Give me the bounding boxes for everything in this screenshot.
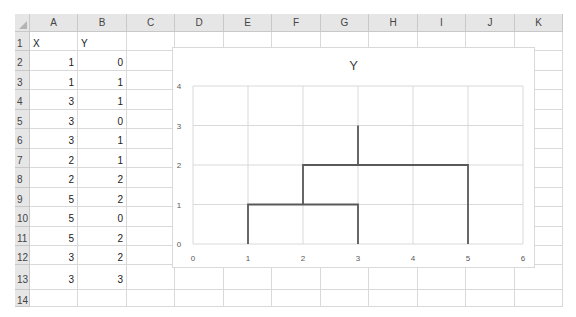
cell-b1[interactable]: Y (78, 32, 127, 51)
column-header-e[interactable]: E (224, 14, 272, 32)
row-header-14[interactable]: 14 (15, 290, 30, 307)
cell-a3[interactable]: 1 (30, 71, 78, 90)
cell-b12[interactable]: 2 (78, 246, 127, 265)
cell-e13[interactable] (224, 265, 272, 290)
y-tick-label: 3 (177, 122, 182, 131)
cell-k13[interactable] (515, 265, 563, 290)
row-header-3[interactable]: 3 (15, 71, 30, 90)
cell-j13[interactable] (466, 265, 515, 290)
cell-j14[interactable] (466, 290, 515, 307)
cell-b8[interactable]: 2 (78, 168, 127, 188)
cell-c10[interactable] (127, 207, 175, 227)
cell-i14[interactable] (418, 290, 466, 307)
row-header-12[interactable]: 12 (15, 246, 30, 265)
cell-b14[interactable] (78, 290, 127, 307)
row-header-7[interactable]: 7 (15, 149, 30, 168)
cell-c3[interactable] (127, 71, 175, 90)
cell-a13[interactable]: 3 (30, 265, 78, 290)
cell-a2[interactable]: 1 (30, 51, 78, 71)
column-header-f[interactable]: F (272, 14, 321, 32)
column-header-a[interactable]: A (30, 14, 78, 32)
cell-b9[interactable]: 2 (78, 188, 127, 207)
y-tick-label: 0 (177, 240, 182, 249)
row-header-11[interactable]: 11 (15, 227, 30, 246)
cell-d13[interactable] (175, 265, 224, 290)
y-tick-label: 4 (177, 82, 182, 91)
row-header-1[interactable]: 1 (15, 32, 30, 51)
column-header-i[interactable]: I (418, 14, 466, 32)
cell-f14[interactable] (272, 290, 321, 307)
column-header-h[interactable]: H (369, 14, 418, 32)
cell-h14[interactable] (369, 290, 418, 307)
row-header-9[interactable]: 9 (15, 188, 30, 207)
x-tick-label: 4 (411, 254, 416, 263)
cell-b4[interactable]: 1 (78, 90, 127, 110)
cell-b2[interactable]: 0 (78, 51, 127, 71)
row-header-2[interactable]: 2 (15, 51, 30, 71)
x-tick-label: 1 (246, 254, 251, 263)
cell-k14[interactable] (515, 290, 563, 307)
cell-c9[interactable] (127, 188, 175, 207)
cell-c8[interactable] (127, 168, 175, 188)
chart[interactable]: Y 012345601234 (172, 47, 535, 268)
cell-a10[interactable]: 5 (30, 207, 78, 227)
column-header-c[interactable]: C (127, 14, 175, 32)
cell-a4[interactable]: 3 (30, 90, 78, 110)
row-header-5[interactable]: 5 (15, 110, 30, 129)
cell-c13[interactable] (127, 265, 175, 290)
cell-a9[interactable]: 5 (30, 188, 78, 207)
cell-a8[interactable]: 2 (30, 168, 78, 188)
y-tick-label: 2 (177, 161, 182, 170)
x-tick-label: 0 (191, 254, 196, 263)
cell-b7[interactable]: 1 (78, 149, 127, 168)
plot-area: 012345601234 (173, 48, 534, 267)
column-header-k[interactable]: K (515, 14, 563, 32)
cell-c2[interactable] (127, 51, 175, 71)
column-header-j[interactable]: J (466, 14, 515, 32)
cell-a6[interactable]: 3 (30, 129, 78, 149)
cell-b6[interactable]: 1 (78, 129, 127, 149)
cell-b13[interactable]: 3 (78, 265, 127, 290)
cell-f13[interactable] (272, 265, 321, 290)
column-header-b[interactable]: B (78, 14, 127, 32)
select-all-corner[interactable] (15, 14, 30, 32)
cell-h13[interactable] (369, 265, 418, 290)
x-tick-label: 3 (356, 254, 361, 263)
x-tick-label: 5 (466, 254, 471, 263)
cell-b3[interactable]: 1 (78, 71, 127, 90)
column-header-g[interactable]: G (321, 14, 369, 32)
cell-a1[interactable]: X (30, 32, 78, 51)
cell-c4[interactable] (127, 90, 175, 110)
cell-g14[interactable] (321, 290, 369, 307)
cell-b11[interactable]: 2 (78, 227, 127, 246)
cell-b10[interactable]: 0 (78, 207, 127, 227)
row-header-4[interactable]: 4 (15, 90, 30, 110)
x-tick-label: 2 (301, 254, 306, 263)
cell-c7[interactable] (127, 149, 175, 168)
column-header-d[interactable]: D (175, 14, 224, 32)
cell-b5[interactable]: 0 (78, 110, 127, 129)
row-header-13[interactable]: 13 (15, 265, 30, 290)
cell-g13[interactable] (321, 265, 369, 290)
cell-i13[interactable] (418, 265, 466, 290)
cell-a11[interactable]: 5 (30, 227, 78, 246)
cell-c5[interactable] (127, 110, 175, 129)
cell-c11[interactable] (127, 227, 175, 246)
cell-d14[interactable] (175, 290, 224, 307)
x-tick-label: 6 (521, 254, 526, 263)
cell-e14[interactable] (224, 290, 272, 307)
cell-c12[interactable] (127, 246, 175, 265)
row-header-8[interactable]: 8 (15, 168, 30, 188)
cell-c6[interactable] (127, 129, 175, 149)
cell-a5[interactable]: 3 (30, 110, 78, 129)
cell-c14[interactable] (127, 290, 175, 307)
cell-c1[interactable] (127, 32, 175, 51)
y-tick-label: 1 (177, 201, 182, 210)
cell-a12[interactable]: 3 (30, 246, 78, 265)
row-header-10[interactable]: 10 (15, 207, 30, 227)
cell-a14[interactable] (30, 290, 78, 307)
row-header-6[interactable]: 6 (15, 129, 30, 149)
cell-a7[interactable]: 2 (30, 149, 78, 168)
